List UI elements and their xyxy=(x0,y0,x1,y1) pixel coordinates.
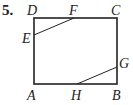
label-d: D xyxy=(26,3,37,18)
geometry-figure: 5. D F C E G A H B xyxy=(0,0,133,105)
label-e: E xyxy=(21,31,31,46)
rectangle-abcd xyxy=(34,18,117,84)
label-f: F xyxy=(68,3,78,18)
label-c: C xyxy=(111,3,121,18)
segment-ef xyxy=(34,18,74,35)
label-g: G xyxy=(119,56,129,71)
label-b: B xyxy=(112,88,121,103)
problem-number: 5. xyxy=(2,2,14,18)
label-h: H xyxy=(70,88,82,103)
label-a: A xyxy=(26,88,36,103)
segment-gh xyxy=(77,67,117,84)
